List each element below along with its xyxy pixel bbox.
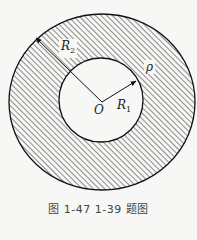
r2-sub: 2 [70,46,75,55]
r1-sub: 1 [126,105,131,114]
label-rho: ρ [144,60,155,74]
r2-symbol: R [61,39,70,53]
label-r2: R2 [59,39,77,58]
r1-symbol: R [117,98,126,112]
label-center-o: O [94,104,104,116]
label-r1: R1 [117,99,131,116]
figure-caption: 图 1-47 1-39 题图 [0,200,197,215]
